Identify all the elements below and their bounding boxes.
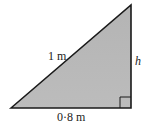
- height-label: h: [135, 54, 141, 68]
- triangle-diagram: 1 m h 0·8 m: [0, 0, 145, 126]
- hypotenuse-label: 1 m: [48, 49, 67, 63]
- base-label: 0·8 m: [57, 110, 86, 124]
- triangle-shape: [11, 5, 131, 108]
